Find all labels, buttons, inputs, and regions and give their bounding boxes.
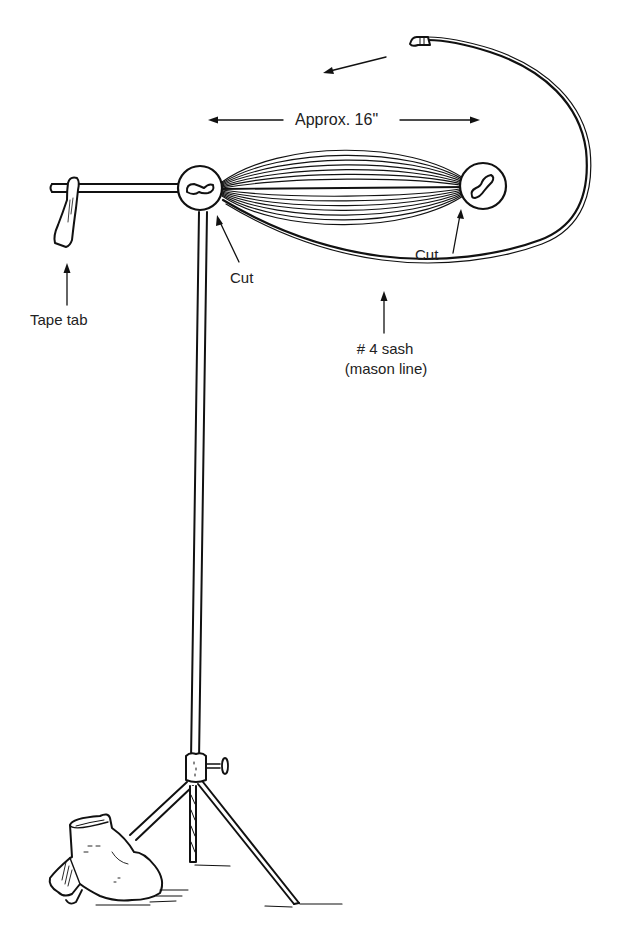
tape-tab-arrow [64, 263, 71, 305]
sash-label-line2: (mason line) [336, 360, 436, 377]
sandbag [50, 814, 188, 905]
clamp-collar [186, 753, 228, 782]
tape-tab-label: Tape tab [30, 311, 88, 328]
sash-winder-illustration [0, 0, 620, 949]
left-hub [178, 166, 222, 210]
rotation-direction-arrow [323, 57, 386, 74]
cut-arrow-right [453, 209, 464, 253]
vertical-pole [191, 212, 207, 760]
tape-tab [54, 178, 78, 247]
right-hub [460, 163, 506, 209]
sash-arrow [381, 291, 388, 333]
dimension-arrow-left [208, 117, 283, 124]
cord-loop [223, 37, 591, 263]
sash-label-line1: # 4 sash [354, 340, 416, 357]
cut-arrow-left [216, 215, 239, 262]
length-label: Approx. 16" [295, 111, 378, 128]
cut-label-left: Cut [230, 269, 253, 286]
wound-cord-bundle [222, 150, 466, 224]
cut-label-right: Cut [415, 246, 438, 263]
dimension-arrow-right [400, 117, 480, 124]
